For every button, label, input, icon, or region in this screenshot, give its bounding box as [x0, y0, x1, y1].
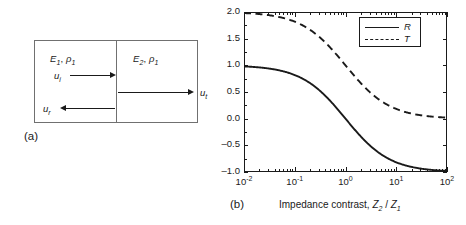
x-axis-tick-top	[447, 12, 448, 17]
x-axis-tick	[447, 167, 448, 172]
material-interface-line	[116, 40, 117, 123]
reflected-wave-arrow	[66, 108, 115, 109]
x-axis-tick-label: 10-1	[286, 175, 303, 187]
x-axis-tick-label: 102	[440, 175, 454, 187]
x-axis-title: Impedance contrast, Z2 / Z1	[279, 199, 401, 212]
reflected-wave-arrowhead-icon	[60, 105, 66, 111]
panel-a-label: (a)	[24, 130, 38, 142]
series-curve-R	[244, 66, 447, 171]
legend-swatch-T-icon	[365, 39, 399, 40]
material-label-right: E2, ρ1	[133, 53, 158, 66]
legend-swatch-R-icon	[365, 27, 399, 28]
x-axis-tick-label: 101	[389, 175, 403, 187]
legend-entry-T: T	[365, 33, 419, 45]
legend-label-R: R	[404, 21, 411, 32]
legend-label-T: T	[404, 33, 410, 44]
x-axis-tick-label: 10-2	[236, 175, 253, 187]
transmitted-wave-arrow	[118, 92, 190, 93]
incident-wave-arrow	[70, 75, 112, 76]
figure: E1, ρ1 E2, ρ1 ui ut ur (a) 2.01.51.00.50…	[0, 0, 466, 225]
legend-entry-R: R	[365, 21, 419, 33]
incident-wave-label: ui	[54, 70, 61, 83]
panel-a-interface-diagram: E1, ρ1 E2, ρ1 ui ut ur (a)	[0, 0, 225, 225]
transmitted-wave-arrowhead-icon	[188, 89, 194, 95]
plot-legend: R T	[359, 17, 421, 47]
incident-wave-arrowhead-icon	[110, 72, 116, 78]
panel-b-label: (b)	[230, 198, 244, 210]
material-left-density-sub: 1	[71, 59, 75, 66]
transmitted-wave-label: ut	[200, 87, 207, 100]
material-right-density-sub: 1	[154, 59, 158, 66]
y-axis-tick	[244, 172, 248, 173]
x-axis-title-text: Impedance contrast,	[279, 199, 372, 210]
y-axis-tick-right	[443, 172, 447, 173]
reflected-wave-label: ur	[43, 103, 51, 116]
x-axis-tick-label: 100	[338, 175, 352, 187]
material-label-left: E1, ρ1	[50, 53, 75, 66]
panel-b-coefficient-plot: 2.01.51.00.50.0–0.5–1.010-210-1100101102…	[225, 0, 466, 225]
